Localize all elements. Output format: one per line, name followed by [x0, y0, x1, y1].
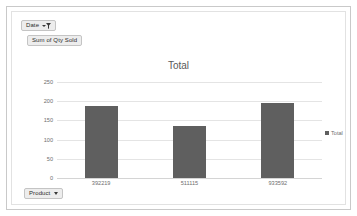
bar-slot — [57, 82, 145, 178]
pivot-chart-object[interactable]: Date Sum of Qty Sold Total 0501001502002… — [6, 6, 351, 210]
chart-inner-frame: Date Sum of Qty Sold Total 0501001502002… — [11, 11, 346, 205]
x-axis-tick: 392219 — [57, 180, 145, 186]
bar-slot — [234, 82, 322, 178]
legend-swatch-total — [325, 131, 329, 135]
gridline — [57, 178, 322, 179]
bar-392219[interactable] — [85, 106, 118, 178]
value-field-button[interactable]: Sum of Qty Sold — [27, 35, 82, 46]
y-axis-tick-labels: 050100150200250 — [33, 82, 55, 178]
y-axis-tick: 50 — [47, 156, 53, 162]
legend-label-total: Total — [331, 130, 343, 136]
y-axis-tick: 200 — [44, 98, 53, 104]
x-axis-tick: 511115 — [145, 180, 233, 186]
y-axis-tick: 150 — [44, 117, 53, 123]
bars-layer — [57, 82, 322, 178]
funnel-glyph — [46, 23, 51, 29]
x-axis-tick: 933592 — [234, 180, 322, 186]
x-axis-tick-labels: 392219511115933592 — [57, 180, 322, 186]
product-field-label: Product — [29, 188, 50, 199]
bar-511115[interactable] — [173, 126, 206, 178]
bar-slot — [145, 82, 233, 178]
chevron-down-icon[interactable] — [54, 192, 58, 195]
date-field-button[interactable]: Date — [21, 20, 56, 31]
date-field-label: Date — [26, 20, 39, 31]
chart-plot-wrapper: 050100150200250 — [33, 82, 322, 178]
value-field-label: Sum of Qty Sold — [32, 35, 77, 46]
plot-area — [57, 82, 322, 178]
bar-933592[interactable] — [261, 103, 294, 178]
y-axis-tick: 0 — [50, 175, 53, 181]
filter-dropdown-icon[interactable] — [42, 22, 51, 30]
chart-title: Total — [12, 60, 345, 71]
chart-legend: Total — [325, 130, 343, 136]
y-axis-tick: 250 — [44, 79, 53, 85]
y-axis-tick: 100 — [44, 137, 53, 143]
product-field-button[interactable]: Product — [24, 188, 63, 199]
